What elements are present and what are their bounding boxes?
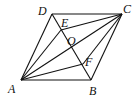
label-C: C — [123, 2, 132, 16]
segment-CE — [61, 14, 122, 30]
label-D: D — [37, 4, 47, 18]
label-A: A — [7, 82, 16, 96]
label-O: O — [67, 34, 76, 48]
label-F: F — [84, 55, 93, 69]
label-B: B — [89, 84, 97, 98]
label-E: E — [60, 16, 69, 30]
parallelogram-diagram: D C E O F A B — [0, 0, 133, 101]
segment-AF — [21, 64, 83, 80]
